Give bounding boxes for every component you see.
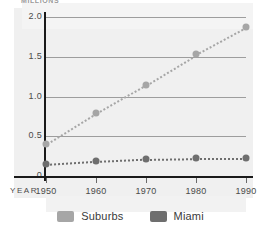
y-axis-tick-label: 1.5 [6, 51, 42, 61]
chart-legend: SuburbsMiami [0, 210, 261, 222]
series-connector [196, 27, 247, 56]
legend-item[interactable]: Suburbs [57, 210, 123, 222]
y-axis-tick-label: 0.5 [6, 130, 42, 140]
series-connector [46, 113, 97, 146]
data-point-marker [243, 24, 250, 31]
x-axis-tick-label: 1960 [85, 186, 106, 196]
series-connector [146, 158, 196, 161]
series-connector [96, 159, 146, 163]
x-axis-tick-label: 1990 [235, 186, 256, 196]
data-point-marker [193, 51, 200, 58]
y-axis-tick-label: 1.0 [6, 91, 42, 101]
series-connector [46, 161, 96, 166]
x-axis-tick-mark [46, 178, 47, 183]
data-point-marker [93, 157, 100, 164]
x-axis-tick-mark [246, 178, 247, 183]
x-axis-tick-mark [146, 178, 147, 183]
data-point-marker [243, 154, 250, 161]
x-axis-line [14, 176, 253, 178]
x-axis-title: YEAR [10, 186, 38, 195]
data-series-group [46, 17, 246, 176]
x-axis-tick-label: 1980 [185, 186, 206, 196]
x-axis-tick-label: 1970 [135, 186, 156, 196]
series-connector [96, 85, 147, 115]
data-point-marker [93, 110, 100, 117]
data-point-marker [143, 81, 150, 88]
x-axis-tick-mark [96, 178, 97, 183]
legend-item[interactable]: Miami [150, 210, 204, 222]
y-axis-tick-label: 2.0 [6, 11, 42, 21]
legend-swatch [150, 211, 167, 222]
x-axis-tick-label: 1950 [35, 186, 56, 196]
data-point-marker [143, 155, 150, 162]
y-axis-tick-labels: 2.01.51.00.50 [0, 0, 42, 190]
data-point-marker [43, 141, 50, 148]
data-point-marker [193, 154, 200, 161]
data-point-marker [43, 161, 50, 168]
chart-figure: MILLIONS 2.01.51.00.50 19501960197019801… [0, 0, 261, 230]
legend-label: Miami [174, 210, 204, 222]
series-connector [146, 54, 197, 86]
legend-swatch [57, 211, 74, 222]
legend-label: Suburbs [81, 210, 123, 222]
series-connector [196, 158, 246, 160]
y-axis-tick-label: 0 [6, 170, 42, 180]
x-axis-tick-mark [196, 178, 197, 183]
